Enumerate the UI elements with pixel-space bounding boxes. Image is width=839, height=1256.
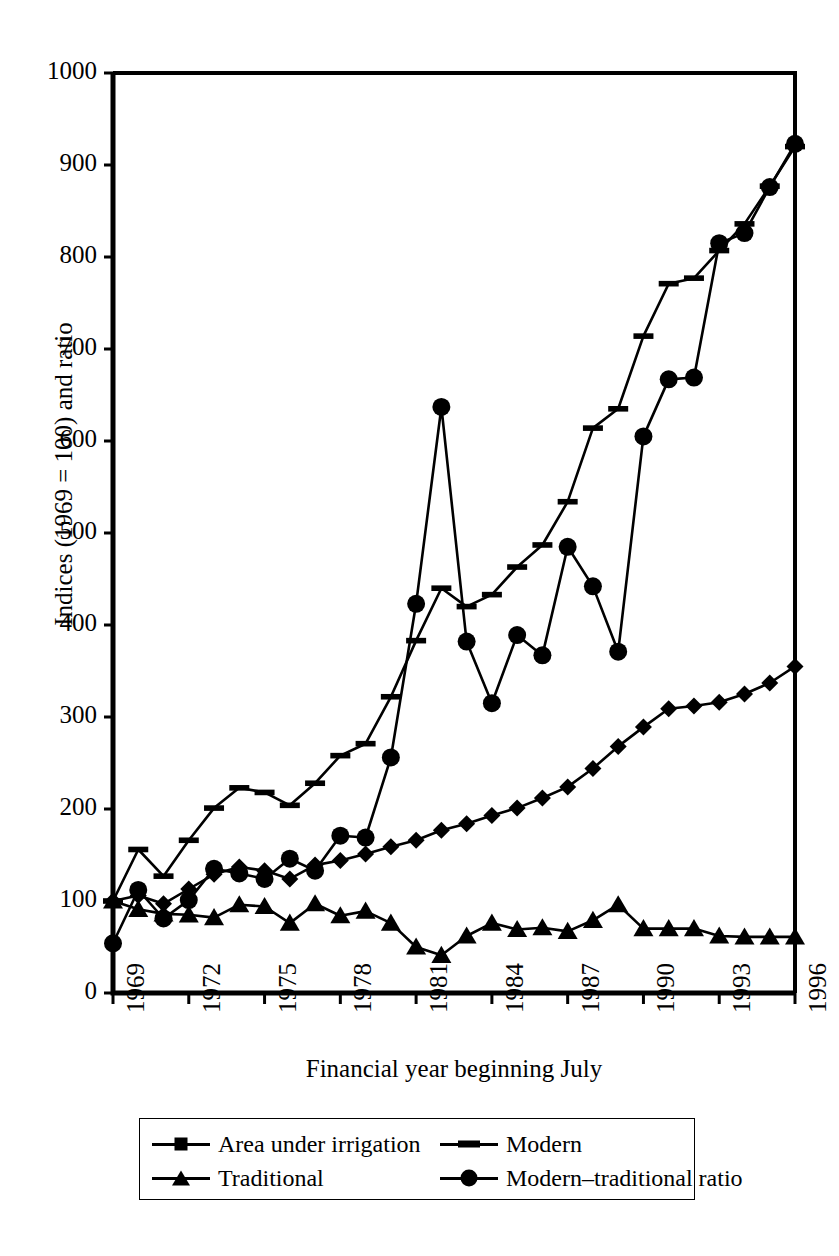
marker-dash [659,281,679,287]
chart-figure: Indices (1969 = 100) and ratio Financial… [0,0,839,1256]
marker-diamond [332,852,349,869]
marker-dash [305,780,325,786]
marker-circle [104,934,122,952]
marker-circle [685,369,703,387]
marker-circle [256,870,274,888]
marker-diamond [660,700,677,717]
legend-label: Area under irrigation [218,1131,421,1158]
marker-circle [382,748,400,766]
marker-circle [584,577,602,595]
marker-triangle [608,895,628,912]
marker-triangle [532,918,552,935]
legend-item-triangle[interactable]: Traditional [152,1161,324,1195]
marker-dash [154,873,174,879]
marker-circle [710,234,728,252]
marker-circle [634,427,652,445]
marker-dash [558,499,578,505]
marker-diamond [761,674,778,691]
legend-glyph-triangle-icon [172,1171,190,1186]
marker-dash [204,805,224,811]
marker-dash [330,753,350,759]
marker-triangle [482,914,502,931]
data-series-layer [103,135,805,963]
marker-triangle [457,926,477,943]
series-circle [104,135,804,952]
marker-circle [407,595,425,613]
series-triangle [103,892,805,963]
plot-area [0,0,839,1256]
marker-diamond [787,658,804,675]
marker-dash [179,837,199,843]
marker-dash [128,847,148,853]
marker-dash [255,790,275,796]
marker-dash [381,694,401,700]
marker-triangle [305,894,325,911]
marker-dash [280,803,300,809]
legend-label: Modern–traditional ratio [506,1165,743,1192]
marker-dash [684,275,704,281]
marker-diamond [534,789,551,806]
marker-circle [306,862,324,880]
marker-circle [205,860,223,878]
legend-label: Traditional [218,1165,324,1192]
marker-diamond [433,822,450,839]
legend-marker-triangle-icon [152,1167,210,1189]
marker-circle [761,178,779,196]
marker-triangle [229,895,249,912]
marker-triangle [356,902,376,919]
marker-circle [357,829,375,847]
legend-item-diamond[interactable]: Area under irrigation [152,1127,421,1161]
marker-circle [180,891,198,909]
marker-circle [129,881,147,899]
legend-glyph-circle-icon [461,1170,478,1187]
marker-diamond [685,697,702,714]
legend-glyph-dash-icon [458,1141,480,1148]
marker-circle [609,643,627,661]
marker-dash [608,406,628,412]
marker-circle [483,694,501,712]
marker-dash [482,592,502,598]
marker-diamond [711,694,728,711]
legend-marker-diamond-icon [152,1133,210,1155]
marker-dash [583,425,603,431]
legend-item-circle[interactable]: Modern–traditional ratio [440,1161,743,1195]
marker-triangle [583,911,603,928]
marker-circle [735,224,753,242]
chart-legend: Area under irrigationModernTraditionalMo… [139,1118,695,1200]
legend-item-dash[interactable]: Modern [440,1127,582,1161]
marker-diamond [483,807,500,824]
marker-diamond [509,800,526,817]
marker-diamond [357,846,374,863]
marker-dash [229,785,249,791]
marker-diamond [736,686,753,703]
marker-dash [507,564,527,570]
legend-marker-dash-icon [440,1133,498,1155]
marker-circle [155,909,173,927]
marker-dash [356,741,376,747]
legend-label: Modern [506,1131,582,1158]
marker-dash [532,542,552,548]
marker-dash [633,333,653,339]
marker-circle [508,626,526,644]
marker-triangle [381,914,401,931]
legend-marker-circle-icon [440,1167,498,1189]
marker-circle [660,370,678,388]
marker-dash [431,585,451,591]
marker-circle [458,633,476,651]
marker-circle [559,538,577,556]
marker-circle [533,646,551,664]
marker-diamond [408,832,425,849]
marker-circle [230,864,248,882]
marker-diamond [382,838,399,855]
series-line [113,144,795,944]
marker-diamond [281,870,298,887]
marker-diamond [458,815,475,832]
marker-circle [281,850,299,868]
legend-glyph-diamond-icon [175,1138,188,1151]
marker-circle [786,135,804,153]
marker-circle [432,398,450,416]
marker-diamond [559,778,576,795]
marker-circle [331,827,349,845]
marker-dash [457,604,477,610]
